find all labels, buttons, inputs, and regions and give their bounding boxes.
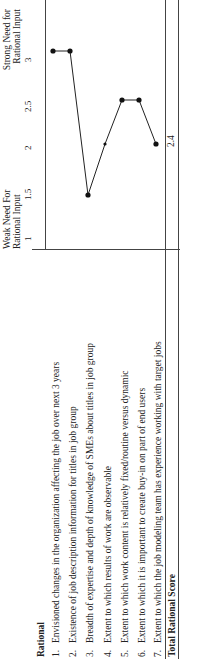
data-points [50, 48, 158, 197]
data-point [153, 141, 158, 146]
data-point [50, 48, 55, 53]
profile-line [53, 51, 156, 195]
rational-profile-figure: Weak Need For Rational Input Strong Need… [0, 0, 201, 659]
data-point [103, 142, 106, 145]
data-point [67, 48, 72, 53]
data-point [136, 97, 141, 102]
data-point [119, 97, 124, 102]
data-point [85, 192, 90, 197]
profile-line-chart [0, 0, 201, 659]
